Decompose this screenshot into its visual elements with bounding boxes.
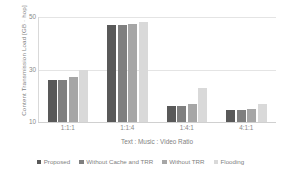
bar [107, 25, 116, 122]
y-tick-label: 30 [2, 67, 36, 73]
legend-label: Without Cache and TRR [86, 159, 153, 165]
bar [258, 104, 267, 122]
legend-swatch-icon [214, 160, 219, 165]
bar [177, 106, 186, 122]
legend-swatch-icon [162, 160, 167, 165]
bar-group [98, 17, 158, 122]
bar [247, 109, 256, 122]
bar [69, 77, 78, 122]
legend-label: Proposed [44, 159, 71, 165]
bar [118, 25, 127, 122]
bar-groups [38, 17, 276, 122]
x-tick-label: 1:1:1 [41, 125, 95, 131]
bar [48, 80, 57, 122]
x-axis-line [38, 122, 276, 123]
legend-item[interactable]: Without TRR [162, 159, 204, 165]
y-tick-label: 50 [2, 14, 36, 20]
bar [139, 22, 148, 122]
legend-swatch-icon [79, 160, 84, 165]
legend-item[interactable]: Flooding [214, 159, 245, 165]
x-axis-title: Text : Music : Video Ratio [38, 138, 276, 145]
legend-item[interactable]: Without Cache and TRR [79, 159, 153, 165]
legend-swatch-icon [37, 160, 42, 165]
x-axis-tick-labels: 1:1:11:1:41:4:14:1:1 [38, 125, 276, 137]
y-axis-tick-labels: 103050 [0, 0, 36, 179]
x-tick-label: 1:1:4 [100, 125, 154, 131]
bar [79, 70, 88, 123]
legend-label: Flooding [221, 159, 245, 165]
bar-group [157, 17, 217, 122]
legend-label: Without TRR [169, 159, 204, 165]
bar [237, 110, 246, 122]
x-tick-label: 1:4:1 [160, 125, 214, 131]
bar-group [38, 17, 98, 122]
bar-group [217, 17, 277, 122]
bar [128, 24, 137, 122]
bar [198, 88, 207, 122]
bar [226, 110, 235, 122]
legend-item[interactable]: Proposed [37, 159, 71, 165]
bar [167, 106, 176, 122]
bar [188, 104, 197, 122]
chart-legend: ProposedWithout Cache and TRRWithout TRR… [0, 159, 281, 165]
y-tick-label: 10 [2, 119, 36, 125]
x-tick-label: 4:1:1 [219, 125, 273, 131]
bar-chart: Content Transmission Load [GB · hop] 103… [0, 0, 281, 179]
bar [58, 80, 67, 122]
